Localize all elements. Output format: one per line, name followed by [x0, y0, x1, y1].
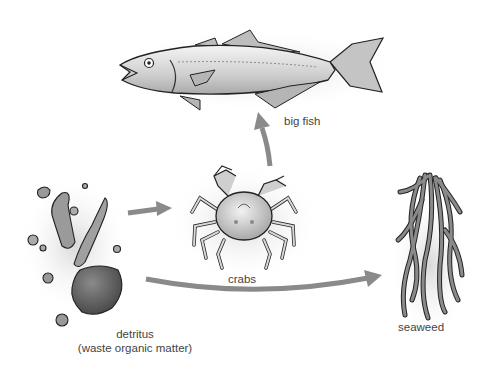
detritus-illustration	[20, 175, 130, 326]
detritus-subtitle: (waste organic matter)	[70, 341, 200, 355]
food-web-diagram: big fish crabs seaweed detritus (waste o…	[0, 0, 503, 366]
crabs-label: crabs	[228, 272, 256, 286]
arrow-crabs-to-big-fish	[254, 112, 270, 166]
big-fish-label: big fish	[284, 114, 320, 128]
seaweed-illustration	[390, 175, 470, 340]
detritus-title: detritus	[70, 327, 200, 341]
arrow-detritus-to-crabs	[128, 201, 172, 216]
seaweed-label: seaweed	[398, 320, 444, 334]
detritus-label: detritus (waste organic matter)	[70, 327, 200, 355]
big-fish-illustration	[105, 28, 405, 112]
diagram-canvas	[0, 0, 503, 366]
crab-illustration	[166, 164, 322, 280]
